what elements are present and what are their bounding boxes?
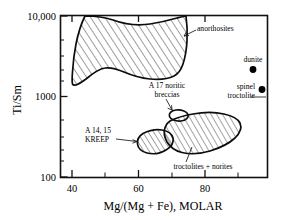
y-axis-title: Ti/Sm xyxy=(10,85,24,115)
label-a17-noritic-breccias-line2: breccias xyxy=(155,90,180,99)
x-tick-label-40: 40 xyxy=(67,183,78,194)
figure-container: 10,000 1000 100 Ti/Sm 40 60 80 Mg/(Mg + … xyxy=(0,0,285,220)
y-tick-label-100: 100 xyxy=(40,172,56,183)
label-a14-15-kreep-line2: KREEP xyxy=(85,135,109,144)
field-troctolites-norites xyxy=(164,113,240,154)
label-spinel-troctolite-line2: troctolite xyxy=(228,91,256,100)
x-tick-label-80: 80 xyxy=(200,183,211,194)
label-anorthosites: anorthosites xyxy=(197,24,234,33)
x-tick-label-60: 60 xyxy=(133,183,144,194)
ti-sm-vs-mg-number-plot: 10,000 1000 100 Ti/Sm 40 60 80 Mg/(Mg + … xyxy=(0,0,285,220)
x-axis-title: Mg/(Mg + Fe), MOLAR xyxy=(104,199,223,213)
label-troctolites-norites: troctolites + norites xyxy=(173,162,232,171)
y-tick-label-10000: 10,000 xyxy=(27,11,56,22)
data-point-spinel-troctolite xyxy=(259,86,266,93)
data-point-dunite xyxy=(250,66,257,73)
label-dunite: dunite xyxy=(244,55,264,64)
y-axis-ticks xyxy=(61,16,68,177)
y-tick-label-1000: 1000 xyxy=(35,91,56,102)
field-anorthosites xyxy=(72,16,187,85)
field-a14-15-kreep xyxy=(137,130,173,154)
